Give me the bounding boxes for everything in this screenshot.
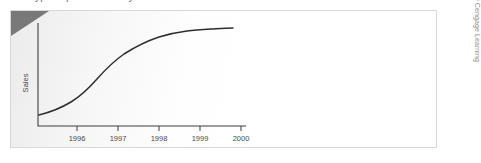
cropped-caption: A typical product life cycle: [22, 0, 322, 2]
line-chart: 1996 1997 1998 1999 2000 Sales: [11, 11, 437, 148]
chart-axes: [38, 23, 246, 126]
x-tick-label: 2000: [233, 134, 250, 143]
x-tick-label: 1997: [110, 134, 127, 143]
copyright-credit: © Cengage Learning: [474, 0, 481, 62]
x-tick-label: 1996: [69, 134, 86, 143]
y-axis-label: Sales: [21, 73, 30, 92]
sales-curve: [39, 28, 233, 115]
x-axis-ticks: [77, 126, 241, 131]
x-tick-label: 1999: [192, 134, 209, 143]
chart-svg: 1996 1997 1998 1999 2000 Sales: [11, 11, 437, 148]
figure-panel: 1996 1997 1998 1999 2000 Sales: [10, 10, 437, 148]
x-tick-label: 1998: [151, 134, 168, 143]
x-axis-tick-labels: 1996 1997 1998 1999 2000: [69, 134, 250, 143]
